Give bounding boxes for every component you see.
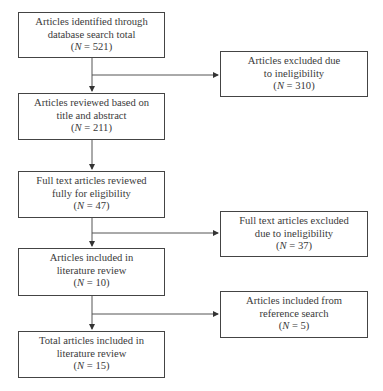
- box-reviewed-abstract-count: (N = 211): [19, 122, 164, 135]
- box-fulltext-excluded-line1: Full text articles excluded: [239, 215, 349, 226]
- box-reviewed-abstract-line1: Articles reviewed based on: [34, 97, 149, 108]
- box-included-review-line1: Articles included in: [50, 252, 134, 263]
- box-fulltext-reviewed: Full text articles reviewed fully for el…: [18, 171, 165, 218]
- box-identified: Articles identified through database sea…: [18, 12, 165, 58]
- box-identified-line2: database search total: [48, 29, 136, 40]
- box-fulltext-excluded: Full text articles excluded due to ineli…: [220, 211, 368, 257]
- box-excluded-ineligible-line1: Articles excluded due: [248, 55, 340, 66]
- box-included-review-line2: literature review: [57, 265, 127, 276]
- box-reference-search: Articles included from reference search …: [220, 291, 368, 338]
- box-fulltext-reviewed-line1: Full text articles reviewed: [36, 175, 146, 186]
- box-excluded-ineligible-count: (N = 310): [221, 80, 367, 93]
- box-identified-count: (N = 521): [19, 41, 164, 54]
- box-included-review: Articles included in literature review (…: [18, 248, 165, 296]
- box-included-review-count: (N = 10): [19, 277, 164, 290]
- box-total-included-line2: literature review: [57, 348, 127, 359]
- box-reference-search-count: (N = 5): [221, 320, 367, 333]
- box-fulltext-reviewed-line2: fully for eligibility: [52, 188, 131, 199]
- box-total-included-count: (N = 15): [19, 360, 164, 373]
- box-reviewed-abstract: Articles reviewed based on title and abs…: [18, 93, 165, 140]
- box-total-included: Total articles included in literature re…: [18, 331, 165, 378]
- box-fulltext-excluded-line2: due to ineligibility: [255, 228, 333, 239]
- box-fulltext-excluded-count: (N = 37): [221, 240, 367, 253]
- box-excluded-ineligible: Articles excluded due to ineligibility (…: [220, 51, 368, 97]
- box-reviewed-abstract-line2: title and abstract: [56, 110, 126, 121]
- box-reference-search-line1: Articles included from: [246, 295, 342, 306]
- box-reference-search-line2: reference search: [259, 308, 328, 319]
- box-fulltext-reviewed-count: (N = 47): [19, 200, 164, 213]
- box-total-included-line1: Total articles included in: [39, 335, 144, 346]
- box-identified-line1: Articles identified through: [35, 16, 147, 27]
- box-excluded-ineligible-line2: to ineligibility: [264, 68, 324, 79]
